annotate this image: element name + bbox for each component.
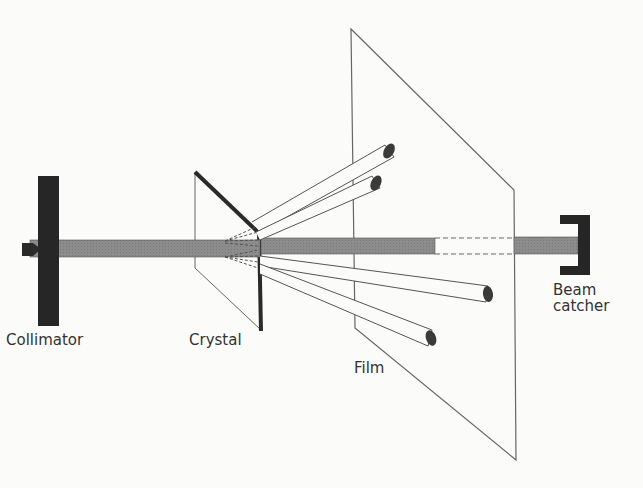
film-label: Film bbox=[354, 360, 384, 377]
transmitted-beam bbox=[261, 237, 578, 254]
collimator-block bbox=[38, 176, 59, 326]
collimator-label: Collimator bbox=[6, 332, 83, 349]
beam-catcher-label-line2: catcher bbox=[553, 298, 609, 315]
crystal-label: Crystal bbox=[189, 332, 242, 349]
diagram-canvas: Collimator Crystal Film Beam catcher bbox=[0, 0, 643, 488]
diagram-svg bbox=[0, 0, 643, 488]
